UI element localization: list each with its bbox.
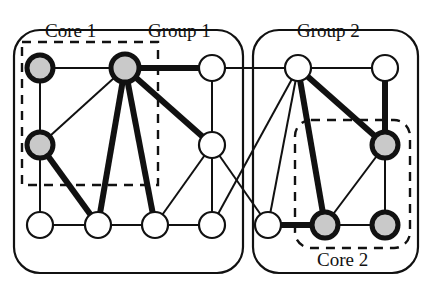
node-mid-right[interactable] — [372, 132, 398, 158]
node-top-2[interactable] — [111, 54, 139, 82]
graph-svg — [0, 0, 431, 288]
node-bot-7[interactable] — [372, 212, 398, 238]
edge-n4-n13 — [268, 68, 298, 225]
diagram-canvas: Core 1 Group 1 Group 2 Core 2 — [0, 0, 431, 288]
node-bot-3[interactable] — [142, 212, 168, 238]
node-top-3[interactable] — [199, 55, 225, 81]
edge-n2-n10 — [98, 68, 125, 225]
edge-n7-n11 — [155, 145, 212, 225]
node-bot-6[interactable] — [312, 212, 338, 238]
node-mid-left[interactable] — [27, 132, 53, 158]
core-1-label: Core 1 — [45, 21, 96, 40]
node-bot-4[interactable] — [199, 212, 225, 238]
group-2-label: Group 2 — [297, 21, 360, 40]
node-mid-center[interactable] — [199, 132, 225, 158]
node-bot-5[interactable] — [255, 212, 281, 238]
node-top-5[interactable] — [372, 55, 398, 81]
node-top-1[interactable] — [27, 55, 53, 81]
group-1-label: Group 1 — [148, 21, 211, 40]
node-bot-2[interactable] — [85, 212, 111, 238]
node-top-4[interactable] — [285, 55, 311, 81]
node-bot-1[interactable] — [27, 212, 53, 238]
edge-n7-n13 — [212, 145, 268, 225]
core-2-label: Core 2 — [317, 250, 368, 269]
